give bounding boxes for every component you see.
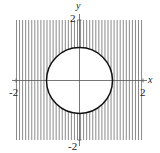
y-tick-label-neg2: -2 (68, 140, 77, 152)
x-axis-label: x (147, 74, 153, 85)
y-tick-label-2: 2 (70, 12, 76, 24)
shaded-region (17, 20, 142, 140)
x-tick-label-2: 2 (140, 86, 146, 98)
y-axis-label: y (75, 0, 81, 11)
diagram: y x 2 -2 -2 2 (0, 0, 160, 153)
x-tick-label-neg2: -2 (9, 86, 18, 98)
